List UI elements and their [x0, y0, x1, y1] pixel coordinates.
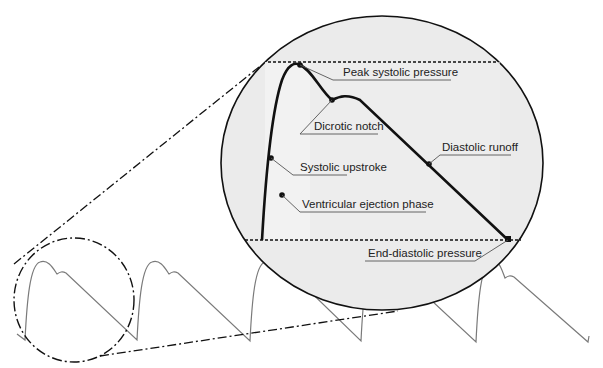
label-systolic-upstroke: Systolic upstroke: [300, 161, 387, 173]
arterial-waveform-diagram: Peak systolic pressure Dicrotic notch Sy…: [0, 0, 603, 368]
focus-circle: [14, 238, 134, 362]
label-dicrotic-notch: Dicrotic notch: [314, 120, 384, 132]
magnifier: Peak systolic pressure Dicrotic notch Sy…: [221, 16, 543, 310]
label-diastolic-runoff: Diastolic runoff: [442, 141, 519, 153]
label-end-diastolic-pressure: End-diastolic pressure: [368, 247, 482, 259]
label-ventricular-ejection-phase: Ventricular ejection phase: [302, 198, 434, 210]
label-peak-systolic-pressure: Peak systolic pressure: [343, 66, 458, 78]
